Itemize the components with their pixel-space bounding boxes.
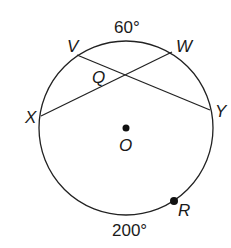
point-r bbox=[170, 197, 178, 205]
diagram-canvas: 60° V W Q X Y O R 200° bbox=[0, 0, 231, 248]
label-r: R bbox=[178, 201, 190, 220]
label-y: Y bbox=[215, 102, 228, 121]
arc-label-top: 60° bbox=[114, 18, 140, 37]
center-point-o bbox=[123, 125, 130, 132]
arc-label-bottom: 200° bbox=[112, 221, 147, 240]
label-o: O bbox=[119, 136, 132, 155]
label-q: Q bbox=[92, 68, 105, 87]
label-v: V bbox=[67, 37, 80, 56]
chord-xw bbox=[41, 52, 172, 116]
label-x: X bbox=[24, 108, 37, 127]
label-w: W bbox=[176, 37, 194, 56]
circle-diagram: 60° V W Q X Y O R 200° bbox=[0, 0, 231, 248]
